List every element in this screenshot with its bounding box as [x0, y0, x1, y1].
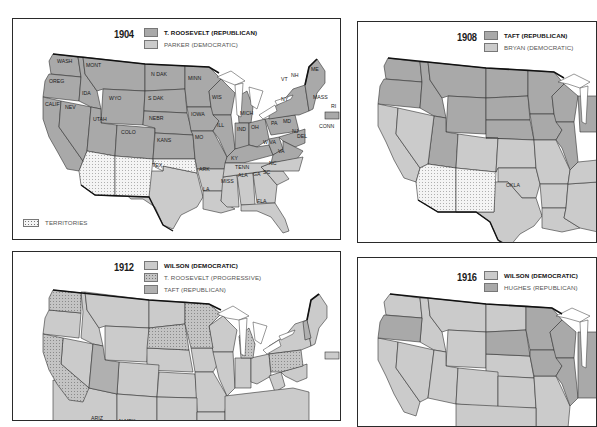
svg-text:CONN: CONN	[319, 123, 335, 129]
us-map-1916	[358, 258, 597, 427]
map-panel-1912: 1912 WILSON (DEMOCRATIC) T. ROOSEVELT (P…	[12, 251, 341, 421]
state-label-ariz: ARIZ	[91, 415, 103, 421]
svg-text:S DAK: S DAK	[148, 95, 164, 101]
svg-text:LA: LA	[203, 186, 210, 192]
svg-text:ILL: ILL	[217, 122, 224, 128]
svg-text:MICH: MICH	[240, 110, 254, 116]
svg-text:ALA: ALA	[238, 172, 248, 178]
svg-text:DEL: DEL	[297, 133, 307, 139]
svg-text:NEV: NEV	[65, 104, 76, 110]
svg-text:NEBR: NEBR	[149, 115, 164, 121]
svg-text:KY: KY	[231, 155, 238, 161]
map-panel-1904: 1904 T. ROOSEVELT (REPUBLICAN) PARKER (D…	[12, 18, 341, 240]
us-map-1904: WASH OREG CALIF NEV IDA MONT WYO UTAH CO…	[13, 19, 341, 240]
svg-text:GA: GA	[253, 171, 261, 177]
svg-text:N DAK: N DAK	[151, 71, 167, 77]
svg-text:VT: VT	[281, 76, 288, 82]
svg-text:TEX: TEX	[152, 162, 163, 168]
us-map-1908: OKLA	[358, 22, 597, 243]
svg-text:OH: OH	[251, 124, 259, 130]
svg-text:MONT: MONT	[86, 62, 102, 68]
state-label-okla: OKLA	[506, 182, 520, 188]
legend-label: TERRITORIES	[45, 219, 88, 227]
svg-text:UTAH: UTAH	[93, 116, 107, 122]
svg-text:ARK: ARK	[199, 166, 210, 172]
state-label-nmex: N MEX	[119, 418, 136, 421]
svg-text:WIS: WIS	[212, 94, 222, 100]
svg-text:OREG: OREG	[49, 78, 64, 84]
svg-text:CALIF: CALIF	[45, 101, 60, 107]
svg-text:NY: NY	[281, 96, 289, 102]
svg-text:MINN: MINN	[188, 75, 202, 81]
svg-text:MD: MD	[283, 118, 291, 124]
svg-text:COLO: COLO	[121, 129, 136, 135]
svg-text:IND: IND	[237, 126, 246, 132]
svg-text:IDA: IDA	[82, 90, 91, 96]
svg-text:TENN: TENN	[235, 164, 249, 170]
svg-text:NC: NC	[269, 160, 277, 166]
svg-text:RI: RI	[331, 103, 336, 109]
svg-text:WYO: WYO	[109, 95, 121, 101]
svg-text:MO: MO	[195, 134, 203, 140]
svg-text:MASS: MASS	[313, 94, 328, 100]
svg-text:IOWA: IOWA	[191, 111, 205, 117]
svg-text:ME: ME	[311, 66, 319, 72]
map-panel-1916: 1916 WILSON (DEMOCRATIC) HUGHES (REPUBLI…	[357, 257, 597, 427]
svg-text:MISS: MISS	[221, 178, 234, 184]
svg-text:FLA: FLA	[257, 198, 267, 204]
svg-text:NH: NH	[291, 72, 299, 78]
svg-text:W VA: W VA	[263, 139, 276, 145]
svg-text:VA: VA	[278, 148, 285, 154]
svg-text:WASH: WASH	[57, 58, 73, 64]
us-map-1912: ARIZ N MEX	[13, 252, 341, 421]
map-panel-1908: 1908 TAFT (REPUBLICAN) BRYAN (DEMOCRATIC…	[357, 21, 597, 243]
svg-text:KANS: KANS	[157, 137, 172, 143]
swatch-territory	[23, 219, 39, 227]
svg-text:PA: PA	[271, 120, 278, 126]
svg-text:SC: SC	[263, 169, 270, 175]
